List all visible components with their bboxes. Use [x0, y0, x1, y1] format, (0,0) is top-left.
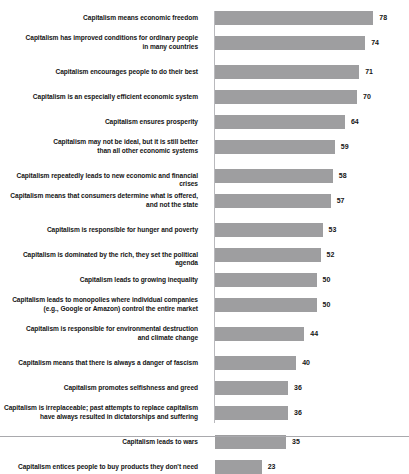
bar-category-label-line: Capitalism may not be ideal, but it is s…	[2, 138, 198, 146]
bar-row: Capitalism is an especially efficient ec…	[0, 90, 409, 104]
bar-value-label: 44	[310, 327, 318, 341]
bar-category-label: Capitalism encourages people to do their…	[2, 68, 198, 76]
bar-category-label-line: Capitalism leads to growing inequality	[2, 276, 198, 284]
bar-row: Capitalism has improved conditions for o…	[0, 36, 409, 50]
bar-fill	[215, 169, 333, 183]
bar-category-label-line: and not the state	[2, 201, 198, 209]
bar-row: Capitalism ensures prosperity64	[0, 115, 409, 129]
bar-fill	[215, 223, 323, 237]
bar-row: Capitalism leads to growing inequality50	[0, 273, 409, 287]
bar-category-label: Capitalism leads to monopolies where ind…	[2, 296, 198, 313]
bar-fill	[215, 90, 357, 104]
bar-category-label-line: Capitalism means economic freedom	[2, 14, 198, 22]
bar-fill	[215, 298, 317, 312]
bar-row: Capitalism means economic freedom78	[0, 11, 409, 25]
bar-fill	[215, 115, 345, 129]
bar-value-label: 50	[323, 273, 331, 287]
bar-row: Capitalism encourages people to do their…	[0, 65, 409, 79]
bar-row: Capitalism repeatedly leads to new econo…	[0, 169, 409, 183]
bar-category-label-line: Capitalism is responsible for environmen…	[2, 325, 198, 333]
bar-value-label: 78	[379, 11, 387, 25]
bar-category-label: Capitalism ensures prosperity	[2, 118, 198, 126]
bar-row: Capitalism leads to wars35	[0, 435, 409, 449]
bar-category-label: Capitalism is responsible for environmen…	[2, 325, 198, 342]
bar-fill	[215, 248, 321, 262]
bar-category-label: Capitalism is an especially efficient ec…	[2, 93, 198, 101]
bar-category-label-line: Capitalism is an especially efficient ec…	[2, 93, 198, 101]
bar-category-label: Capitalism promotes selfishness and gree…	[2, 384, 198, 392]
bar-value-label: 71	[365, 65, 373, 79]
bar-fill	[215, 356, 296, 370]
bar-fill	[215, 11, 373, 25]
bar-value-label: 58	[339, 169, 347, 183]
bar-row: Capitalism is responsible for hunger and…	[0, 223, 409, 237]
bar-category-label-line: Capitalism repeatedly leads to new econo…	[2, 172, 198, 189]
bar-category-label: Capitalism leads to wars	[2, 438, 198, 446]
bar-category-label-line: Capitalism is dominated by the rich, the…	[2, 251, 198, 268]
bar-category-label-line: Capitalism leads to monopolies where ind…	[2, 296, 198, 304]
bar-fill	[215, 327, 304, 341]
bar-value-label: 23	[268, 460, 276, 474]
plot-area: Capitalism means economic freedom78Capit…	[0, 11, 409, 425]
bar-row: Capitalism leads to monopolies where ind…	[0, 298, 409, 312]
bar-category-label: Capitalism is responsible for hunger and…	[2, 226, 198, 234]
bar-value-label: 70	[363, 90, 371, 104]
bar-value-label: 52	[327, 248, 335, 262]
bar-category-label-line: (e.g., Google or Amazon) control the ent…	[2, 305, 198, 313]
bar-row: Capitalism is dominated by the rich, the…	[0, 248, 409, 262]
bar-value-label: 74	[371, 36, 379, 50]
bar-row: Capitalism is responsible for environmen…	[0, 327, 409, 341]
bar-category-label: Capitalism is irreplaceable; past attemp…	[2, 404, 198, 421]
bar-category-label: Capitalism means that there is always a …	[2, 359, 198, 367]
bar-row: Capitalism means that consumers determin…	[0, 194, 409, 208]
bar-category-label-line: Capitalism ensures prosperity	[2, 118, 198, 126]
bar-category-label: Capitalism entices people to buy product…	[2, 463, 198, 471]
bar-fill	[215, 460, 262, 474]
bar-category-label-line: have always resulted in dictatorships an…	[2, 413, 198, 421]
bar-category-label-line: than all other economic systems	[2, 147, 198, 155]
bar-category-label: Capitalism means economic freedom	[2, 14, 198, 22]
bar-row: Capitalism entices people to buy product…	[0, 460, 409, 474]
bar-category-label-line: Capitalism has improved conditions for o…	[2, 34, 198, 42]
bar-value-label: 57	[337, 194, 345, 208]
bar-value-label: 59	[341, 140, 349, 154]
bar-fill	[215, 435, 286, 449]
bar-row: Capitalism promotes selfishness and gree…	[0, 381, 409, 395]
bar-category-label-line: Capitalism means that there is always a …	[2, 359, 198, 367]
bar-fill	[215, 140, 335, 154]
bar-category-label-line: Capitalism leads to wars	[2, 438, 198, 446]
bar-category-label-line: in many countries	[2, 43, 198, 51]
bar-fill	[215, 381, 288, 395]
bar-category-label: Capitalism repeatedly leads to new econo…	[2, 172, 198, 189]
chart-title	[0, 0, 409, 2]
bar-fill	[215, 194, 331, 208]
bar-category-label-line: Capitalism is irreplaceable; past attemp…	[2, 404, 198, 412]
bar-fill	[215, 406, 288, 420]
bar-row: Capitalism is irreplaceable; past attemp…	[0, 406, 409, 420]
bar-category-label: Capitalism means that consumers determin…	[2, 192, 198, 209]
bar-value-label: 35	[292, 435, 300, 449]
bar-value-label: 64	[351, 115, 359, 129]
bar-row: Capitalism may not be ideal, but it is s…	[0, 140, 409, 154]
bar-category-label: Capitalism leads to growing inequality	[2, 276, 198, 284]
bar-category-label-line: Capitalism is responsible for hunger and…	[2, 226, 198, 234]
bar-category-label: Capitalism is dominated by the rich, the…	[2, 251, 198, 268]
bar-category-label: Capitalism may not be ideal, but it is s…	[2, 138, 198, 155]
bar-row: Capitalism means that there is always a …	[0, 356, 409, 370]
bar-category-label-line: Capitalism entices people to buy product…	[2, 463, 198, 471]
bar-fill	[215, 36, 365, 50]
bar-category-label: Capitalism has improved conditions for o…	[2, 34, 198, 51]
bar-category-label-line: Capitalism encourages people to do their…	[2, 68, 198, 76]
bar-fill	[215, 65, 359, 79]
bar-value-label: 40	[302, 356, 310, 370]
bar-fill	[215, 273, 317, 287]
bar-category-label-line: and climate change	[2, 334, 198, 342]
bar-value-label: 53	[329, 223, 337, 237]
bottom-divider	[0, 436, 409, 437]
bar-value-label: 36	[294, 381, 302, 395]
bar-category-label-line: Capitalism means that consumers determin…	[2, 192, 198, 200]
bar-category-label-line: Capitalism promotes selfishness and gree…	[2, 384, 198, 392]
bar-value-label: 50	[323, 298, 331, 312]
bar-value-label: 36	[294, 406, 302, 420]
